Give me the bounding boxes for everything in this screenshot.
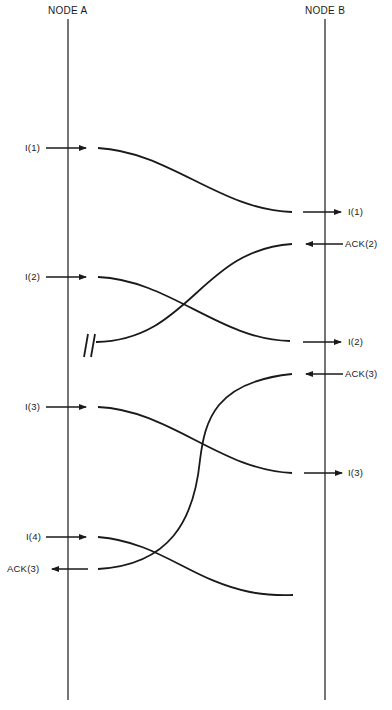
frame-path-i2 [98, 277, 290, 341]
label-b-i2: I(2) [348, 337, 363, 347]
label-a-i4: I(4) [26, 532, 41, 542]
label-b-i1: I(1) [348, 207, 363, 217]
label-a-ack3: ACK(3) [7, 564, 39, 574]
label-a-i2: I(2) [25, 272, 40, 282]
frame-path-ack3 [98, 374, 292, 569]
lost-mark [91, 334, 95, 357]
frame-path-i1 [98, 148, 292, 212]
frame-path-ack2 [96, 244, 292, 342]
label-b-i3: I(3) [348, 468, 363, 478]
sequence-diagram [0, 0, 392, 710]
frame-path-i3 [98, 407, 292, 473]
label-a-i1: I(1) [25, 143, 40, 153]
lost-mark [84, 334, 88, 357]
label-b-ack2: ACK(2) [345, 239, 377, 249]
label-b-ack3: ACK(3) [345, 369, 377, 379]
frame-path-i4 [98, 537, 293, 595]
label-a-i3: I(3) [25, 402, 40, 412]
